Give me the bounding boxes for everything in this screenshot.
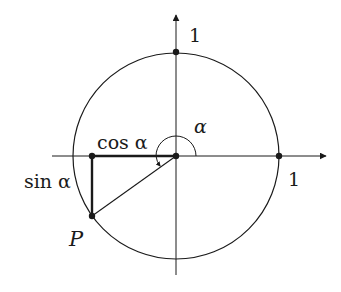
diagram-canvas <box>0 0 341 292</box>
point-top <box>173 49 179 55</box>
sin-label: sin α <box>24 172 71 191</box>
y-axis-one-label: 1 <box>189 26 201 45</box>
cos-label: cos α <box>97 133 148 152</box>
unit-circle-diagram: 1 1 α cos α sin α P <box>0 0 341 292</box>
x-axis-one-label: 1 <box>288 170 300 189</box>
radius-to-p <box>92 156 176 216</box>
point-cos-foot <box>89 153 95 159</box>
alpha-label: α <box>194 117 207 136</box>
point-p <box>89 213 95 219</box>
point-p-label: P <box>69 229 83 250</box>
point-right <box>276 153 282 159</box>
point-origin <box>173 153 179 159</box>
